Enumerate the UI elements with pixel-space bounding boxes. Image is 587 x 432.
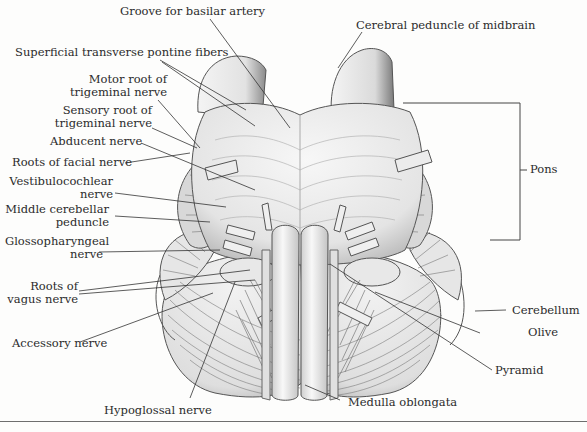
label-motor-root-trigeminal: Motor root of trigeminal nerve <box>70 73 167 99</box>
label-glossopharyngeal-nerve: Glossopharyngeal nerve <box>5 235 103 261</box>
label-vestibulocochlear-nerve: Vestibulocochlear nerve <box>5 175 113 201</box>
label-pons: Pons <box>530 163 558 176</box>
label-hypoglossal-nerve: Hypoglossal nerve <box>104 404 212 417</box>
label-vagus-line2: vagus nerve <box>5 293 78 306</box>
label-glossopharyngeal-line2: nerve <box>5 248 103 261</box>
label-middle-cerebellar-peduncle: Middle cerebellar peduncle <box>5 203 109 229</box>
label-superficial-transverse-pontine-fibers: Superficial transverse pontine fibers <box>15 46 228 59</box>
label-pyramid: Pyramid <box>495 364 544 377</box>
caption-divider <box>0 421 587 422</box>
label-middle-cerebellar-line2: peduncle <box>5 216 109 229</box>
label-sensory-root-line2: trigeminal nerve <box>50 117 152 130</box>
label-sensory-root-trigeminal: Sensory root of trigeminal nerve <box>50 104 152 130</box>
label-olive: Olive <box>528 326 558 339</box>
label-motor-root-line2: trigeminal nerve <box>70 86 167 99</box>
anatomy-figure: Groove for basilar artery Cerebral pedun… <box>0 0 587 432</box>
label-groove-basilar-artery: Groove for basilar artery <box>120 5 265 18</box>
label-medulla-oblongata: Medulla oblongata <box>348 396 457 409</box>
label-accessory-nerve: Accessory nerve <box>12 337 107 350</box>
label-abducent-nerve: Abducent nerve <box>50 135 142 148</box>
label-cerebral-peduncle: Cerebral peduncle of midbrain <box>356 19 535 32</box>
label-roots-vagus-nerve: Roots of vagus nerve <box>5 280 78 306</box>
label-cerebellum: Cerebellum <box>512 304 580 317</box>
label-vestibulocochlear-line2: nerve <box>5 188 113 201</box>
label-roots-facial-nerve: Roots of facial nerve <box>12 156 132 169</box>
